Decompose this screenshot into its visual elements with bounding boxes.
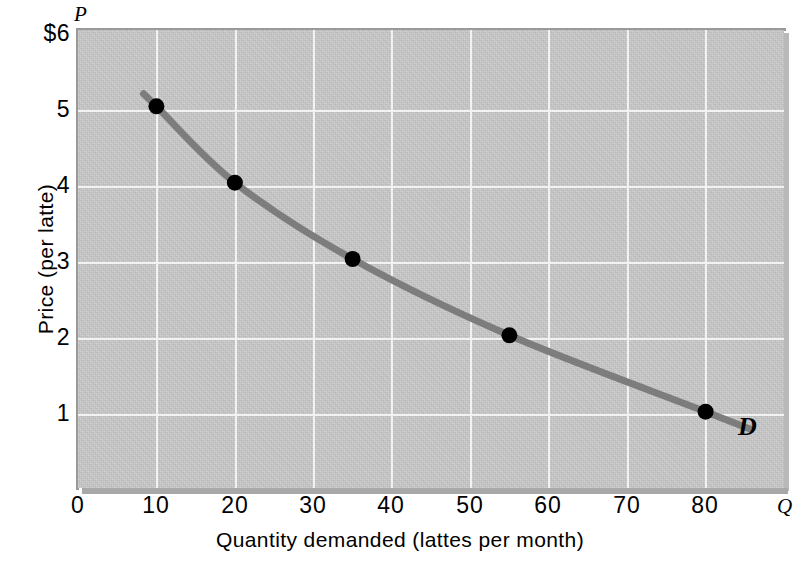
y-tick-4: 4 [57,174,70,197]
plot-area [78,30,784,488]
demand-curve-label: D [738,412,757,442]
data-point-80-1 [698,404,714,420]
data-point-10-5 [148,98,164,114]
demand-curve-figure: D P Q $6 5 4 3 2 1 0 10 20 30 40 50 60 7… [0,0,800,562]
y-tick-1: 1 [57,402,70,425]
plot-panel-right-shadow [784,33,789,491]
data-point-35-3 [345,251,361,267]
y-tick-5: 5 [57,98,70,121]
y-tick-2: 2 [57,326,70,349]
y-tick-3: 3 [57,250,70,273]
x-tick-20: 20 [205,494,265,517]
data-point-20-4 [227,175,243,191]
x-tick-30: 30 [283,494,343,517]
demand-curve-svg [78,30,784,488]
x-tick-0: 0 [48,494,108,517]
x-axis-symbol: Q [777,494,792,519]
demand-curve-path [144,94,751,429]
y-tick-6: $6 [43,22,70,45]
x-tick-10: 10 [126,494,186,517]
y-axis-symbol: P [74,2,87,27]
y-axis-title: Price (per latte) [34,109,58,409]
x-axis-title: Quantity demanded (lattes per month) [0,528,800,552]
x-tick-70: 70 [597,494,657,517]
x-tick-50: 50 [440,494,500,517]
x-tick-40: 40 [361,494,421,517]
data-point-55-2 [501,327,517,343]
x-tick-80: 80 [675,494,735,517]
x-tick-60: 60 [518,494,578,517]
